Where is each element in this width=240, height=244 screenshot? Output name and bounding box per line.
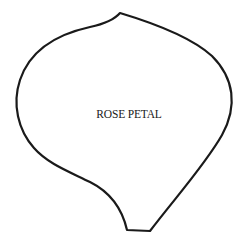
- rose-petal-template: ROSE PETAL: [0, 0, 240, 244]
- petal-outline: [0, 0, 240, 244]
- petal-label: ROSE PETAL: [10, 107, 240, 122]
